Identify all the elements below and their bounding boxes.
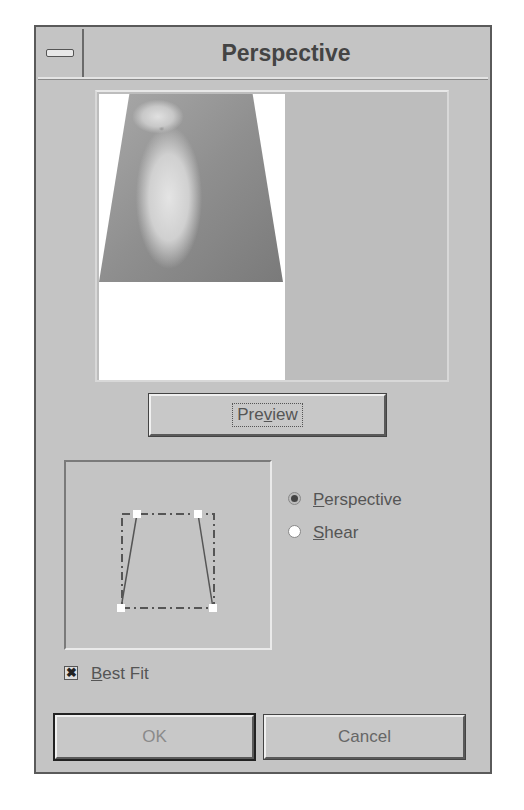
- title-bar: Perspective: [38, 29, 488, 79]
- radio-shear[interactable]: Shear: [288, 522, 358, 544]
- best-fit-checkbox[interactable]: ✖Best Fit: [64, 665, 149, 683]
- cancel-button[interactable]: Cancel: [264, 715, 465, 759]
- system-menu-icon: [46, 49, 74, 57]
- handle-top-right[interactable]: [194, 510, 202, 518]
- radio-unselected-icon: [288, 525, 301, 538]
- preview-image: [99, 94, 283, 282]
- preview-button[interactable]: Preview: [149, 394, 386, 436]
- ok-button[interactable]: OK: [55, 715, 254, 759]
- handle-bottom-right[interactable]: [209, 604, 217, 612]
- radio-perspective[interactable]: Perspective: [288, 489, 402, 511]
- perspective-editor[interactable]: [64, 460, 272, 650]
- trapezoid-handles-graphic: [66, 462, 270, 648]
- handle-top-left[interactable]: [133, 510, 141, 518]
- perspective-dialog: Perspective Preview Perspective Shear ✖B…: [34, 25, 492, 774]
- dialog-title: Perspective: [84, 29, 488, 77]
- handle-bottom-left[interactable]: [117, 604, 125, 612]
- checkbox-checked-icon: ✖: [64, 666, 78, 680]
- radio-selected-icon: [288, 492, 301, 505]
- focus-rect: Preview: [232, 403, 302, 427]
- system-menu-button[interactable]: [38, 29, 84, 77]
- preview-area: [95, 90, 449, 382]
